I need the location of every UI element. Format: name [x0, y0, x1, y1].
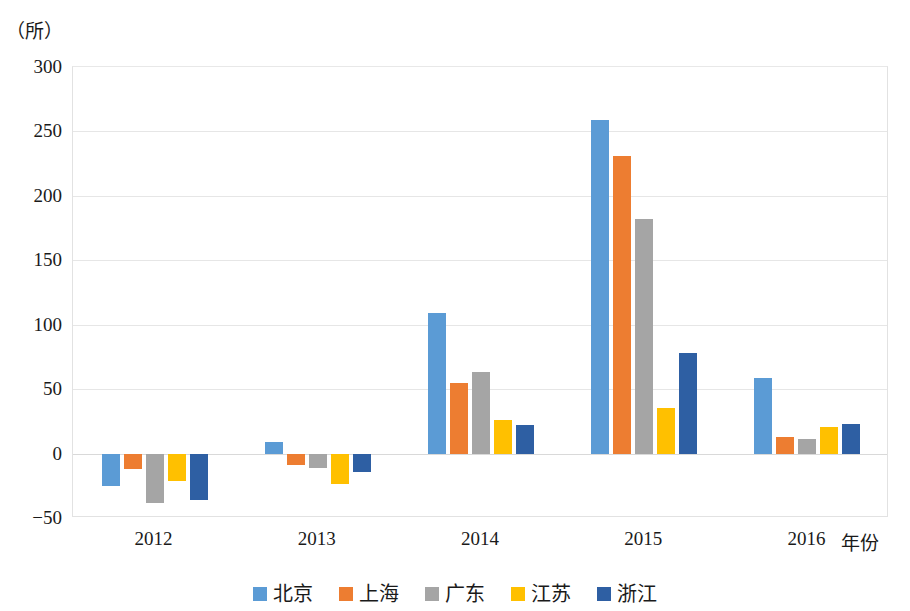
x-axis-tick-label: 2016: [787, 528, 825, 550]
legend-color-swatch: [597, 587, 611, 601]
x-axis-tick-label: 2013: [298, 528, 336, 550]
x-axis-title: 年份: [841, 528, 879, 555]
bar: [798, 439, 816, 453]
y-axis-tick-label: −50: [6, 508, 62, 527]
bar: [124, 454, 142, 469]
bar: [287, 454, 305, 466]
bar: [657, 408, 675, 453]
legend-color-swatch: [425, 587, 439, 601]
bar: [494, 420, 512, 454]
legend-label: 广东: [445, 584, 485, 604]
bar: [450, 383, 468, 454]
legend-label: 北京: [273, 584, 313, 604]
bar: [265, 442, 283, 454]
y-axis-tick-label: 300: [6, 57, 62, 76]
legend-item[interactable]: 浙江: [597, 584, 657, 604]
bar: [428, 313, 446, 453]
legend-color-swatch: [339, 587, 353, 601]
bar: [635, 219, 653, 454]
x-axis-tick-label: 2015: [624, 528, 662, 550]
bar: [168, 454, 186, 481]
bar: [190, 454, 208, 500]
y-axis-tick-label: 0: [6, 443, 62, 462]
legend-item[interactable]: 广东: [425, 584, 485, 604]
chart-legend: 北京上海广东江苏浙江: [0, 584, 910, 604]
gridline: [73, 260, 887, 261]
gridline: [73, 131, 887, 132]
bar: [591, 120, 609, 454]
legend-color-swatch: [511, 587, 525, 601]
x-axis-tick-label: 2014: [461, 528, 499, 550]
bar: [679, 353, 697, 454]
bar: [516, 425, 534, 453]
bar: [613, 156, 631, 454]
y-axis-tick-label: 250: [6, 121, 62, 140]
y-axis-tick-label: 150: [6, 250, 62, 269]
bar: [472, 372, 490, 453]
bar: [820, 427, 838, 454]
bar: [842, 424, 860, 454]
bar: [776, 437, 794, 454]
x-axis-tick-label: 2012: [135, 528, 173, 550]
legend-item[interactable]: 江苏: [511, 584, 571, 604]
legend-color-swatch: [253, 587, 267, 601]
legend-label: 江苏: [531, 584, 571, 604]
bar: [102, 454, 120, 486]
bar-chart-figure: （所） 300250200150100500−50 20122013201420…: [0, 0, 910, 611]
bar: [309, 454, 327, 468]
gridline: [73, 325, 887, 326]
bar: [754, 378, 772, 454]
bar: [331, 454, 349, 485]
legend-item[interactable]: 北京: [253, 584, 313, 604]
plot-area: [72, 66, 888, 517]
legend-item[interactable]: 上海: [339, 584, 399, 604]
y-axis-tick-label: 50: [6, 379, 62, 398]
legend-label: 浙江: [617, 584, 657, 604]
y-axis-tick-label: 100: [6, 314, 62, 333]
bar: [353, 454, 371, 472]
legend-label: 上海: [359, 584, 399, 604]
y-axis-tick-label: 200: [6, 185, 62, 204]
y-axis-unit-label: （所）: [6, 16, 63, 43]
bar: [146, 454, 164, 503]
gridline: [73, 196, 887, 197]
